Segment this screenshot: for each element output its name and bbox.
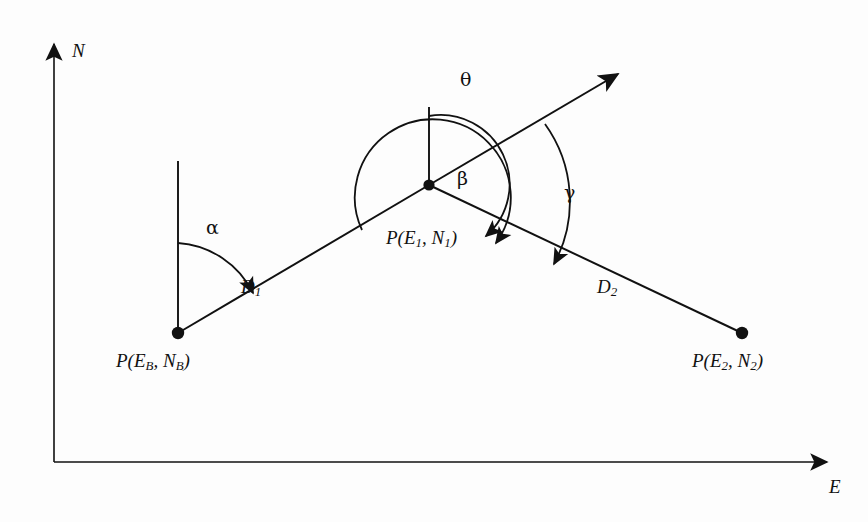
point-label-station2-close: ) [757,350,763,371]
station-markers [172,179,748,339]
point-label-station2-e: E [710,350,722,371]
point-label-base-n: N [163,350,176,371]
point-label-station1-comma: , [422,227,427,248]
angle-label-alpha: α [206,218,219,237]
point-label-station2: P(E2, N2) [692,351,763,373]
station-dot-station1 [423,179,434,190]
traverse-legs [178,74,742,333]
point-label-base-close: ) [184,350,190,371]
point-label-station1: P(E1, N1) [386,228,457,250]
diagram-canvas [0,0,868,522]
distance-label-d2-main: D [597,276,611,297]
point-label-base-comma: , [153,350,158,371]
point-label-station2-prefix: P [692,350,704,371]
east-axis-label: E [829,477,841,496]
point-label-base-e: E [134,350,146,371]
point-label-base-n-sub: B [176,358,184,373]
distance-label-d1-main: D [241,276,255,297]
distance-label-d2-sub: 2 [611,284,617,299]
angle-label-theta: θ [460,70,471,89]
leg-d1 [178,185,429,333]
distance-label-d1: D1 [241,277,261,299]
figure-root: N E P(EB, NB) P(E1, N1) P(E2, N2) D1 D2 … [0,0,868,522]
leg-d2 [429,185,742,333]
point-label-station1-close: ) [451,227,457,248]
point-label-station1-e: E [404,227,416,248]
point-label-station2-comma: , [728,350,733,371]
distance-label-d1-sub: 1 [255,284,261,299]
point-label-station1-prefix: P [386,227,398,248]
distance-label-d2: D2 [597,277,617,299]
angle-arcs [178,115,570,293]
point-label-base: P(EB, NB) [116,351,190,373]
angle-label-gamma: γ [564,183,575,202]
point-label-station1-n: N [432,227,445,248]
station-dot-base [172,327,184,339]
point-label-station2-n: N [738,350,751,371]
point-label-base-prefix: P [116,350,128,371]
north-axis-label: N [72,41,85,60]
angle-label-beta: β [457,169,468,188]
station-dot-station2 [736,327,748,339]
axes-group [54,44,827,462]
